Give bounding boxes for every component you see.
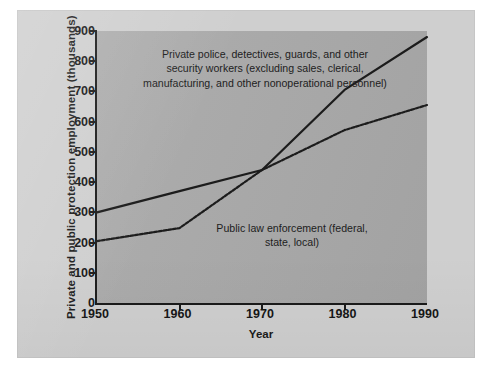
x-tick-label: 1990: [395, 308, 455, 321]
annotation-public-law-enforcement: Public law enforcement (federal, state, …: [205, 221, 379, 250]
y-tick-mark: [90, 151, 97, 153]
x-tick-label: 1980: [313, 308, 373, 321]
y-tick-mark: [90, 181, 97, 183]
y-tick-mark: [90, 60, 97, 62]
y-tick-mark: [90, 90, 97, 92]
y-tick-mark: [90, 121, 97, 123]
y-tick-mark: [90, 242, 97, 244]
y-tick-mark: [90, 211, 97, 213]
figure-panel: Private and public protection employment…: [17, 10, 475, 358]
x-tick-label: 1950: [65, 308, 125, 321]
x-axis-tick-labels: 19501960197019801990: [95, 308, 427, 326]
x-tick-label: 1960: [148, 308, 208, 321]
plot-area: Private police, detectives, guards, and …: [95, 31, 427, 305]
y-tick-mark: [90, 30, 97, 32]
annotation-private-security: Private police, detectives, guards, and …: [143, 47, 387, 90]
y-tick-mark: [90, 272, 97, 274]
x-tick-label: 1970: [230, 308, 290, 321]
x-axis-label: Year: [95, 328, 427, 340]
